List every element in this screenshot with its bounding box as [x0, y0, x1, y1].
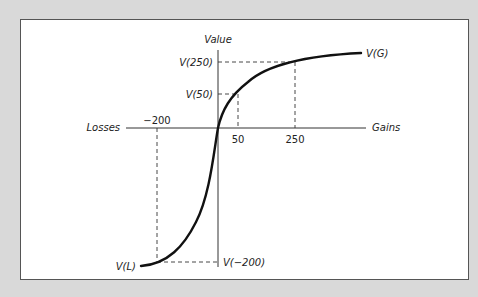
curve-label-losses: V(L)	[116, 261, 136, 272]
y-tick-v50: V(50)	[186, 89, 213, 100]
curve-label-gains: V(G)	[366, 48, 388, 59]
x-tick-250: 250	[285, 134, 304, 145]
value-axis-label: Value	[204, 34, 232, 45]
value-curve	[141, 53, 361, 266]
y-tick-v250: V(250)	[179, 57, 213, 68]
gains-label: Gains	[372, 122, 400, 133]
x-tick-50: 50	[232, 134, 245, 145]
value-function-diagram: Value Losses Gains −200 50 250 V(250) V(…	[0, 0, 478, 297]
guide-lines	[157, 62, 295, 262]
y-tick-vneg200: V(−200)	[223, 257, 265, 268]
x-tick-neg200: −200	[143, 115, 170, 126]
losses-label: Losses	[87, 122, 120, 133]
